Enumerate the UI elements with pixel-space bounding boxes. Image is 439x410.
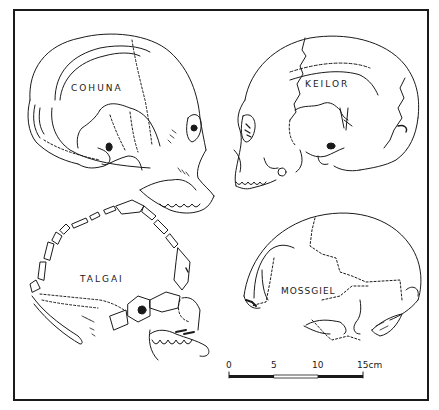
scale-label-10: 10 [312,360,323,370]
scale-label-5: 5 [271,360,277,370]
label-cohuna: COHUNA [71,83,123,93]
label-talgai: TALGAI [80,274,124,284]
scale-label-15cm: 15cm [357,360,382,370]
scale-segment-10-15 [318,375,363,378]
label-keilor: KEILOR [305,79,349,89]
mossgiel-skull-drawing [244,213,421,340]
skull-drawings [0,0,439,410]
cohuna-skull-drawing [28,34,214,213]
scale-bar [229,372,363,378]
label-mossgiel: MOSSGIEL [281,286,336,296]
keilor-skull-drawing [234,36,419,189]
scale-segment-5-10 [274,375,318,378]
scale-segment-0-5 [229,375,274,378]
scale-label-0: 0 [226,360,232,370]
